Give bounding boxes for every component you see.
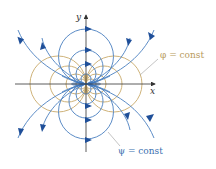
phi-const-label: φ = const [160, 50, 204, 60]
psi-const-label: ψ = const [118, 146, 163, 156]
x-axis-label: x [150, 86, 155, 96]
doublet-flow-diagram [0, 0, 216, 169]
y-axis-label: y [76, 12, 81, 22]
